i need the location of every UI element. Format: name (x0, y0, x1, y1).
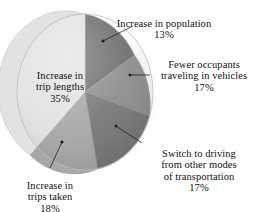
pie-chart-figure: Increase in population 13% Fewer occupan… (0, 0, 257, 212)
slice-value-text: 17% (144, 182, 254, 194)
slice-value-text: 17% (152, 82, 256, 94)
slice-label-increase-in-trip-lengths: Increase in trip lengths 35% (22, 58, 98, 116)
leader-dot-occupants (129, 74, 132, 77)
leader-dot-switch (115, 125, 118, 128)
slice-label-switch-to-driving: Switch to driving from other modes of tr… (144, 136, 254, 206)
slice-label-text: Fewer occupants traveling in vehicles (161, 59, 247, 82)
slice-value-text: 18% (2, 203, 98, 212)
slice-value-text: 35% (22, 93, 98, 105)
slice-label-increase-in-trips-taken: Increase in trips taken 18% (2, 168, 98, 212)
slice-label-text: Switch to driving from other modes of tr… (161, 148, 236, 182)
slice-label-fewer-occupants: Fewer occupants traveling in vehicles 17… (152, 47, 256, 105)
slice-label-text: Increase in trip lengths (36, 70, 84, 93)
slice-label-increase-in-population: Increase in population 13% (104, 6, 224, 52)
slice-label-text: Increase in trips taken (27, 180, 73, 203)
slice-label-text: Increase in population (117, 18, 211, 29)
leader-dot-trips-taken (61, 141, 64, 144)
slice-value-text: 13% (104, 29, 224, 41)
